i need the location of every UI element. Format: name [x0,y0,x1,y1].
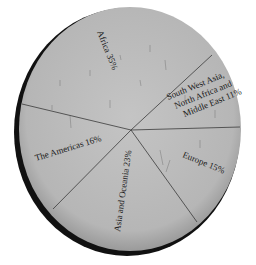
pie-disk [19,7,241,251]
pie-chart: Africa 35% South West Asia, North Africa… [0,0,256,265]
